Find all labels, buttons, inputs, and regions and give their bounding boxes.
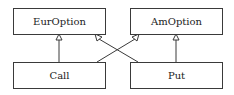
class-label: AmOption (151, 16, 202, 27)
class-call: Call (13, 62, 106, 89)
class-amoption: AmOption (130, 8, 223, 35)
class-label: EurOption (33, 16, 86, 27)
class-label: Put (168, 70, 185, 81)
class-label: Call (49, 70, 69, 81)
class-euroption: EurOption (13, 8, 106, 35)
class-put: Put (130, 62, 223, 89)
